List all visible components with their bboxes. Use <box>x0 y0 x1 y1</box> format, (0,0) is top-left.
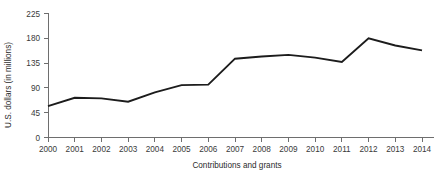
y-tick-label: 135 <box>26 59 40 68</box>
x-tick-label: 2002 <box>92 145 111 154</box>
x-axis-title: Contributions and grants <box>192 161 281 170</box>
x-tick-label: 2013 <box>386 145 405 154</box>
x-tick-label: 2009 <box>279 145 298 154</box>
x-tick-label: 2010 <box>306 145 325 154</box>
x-tick-label: 2014 <box>413 145 432 154</box>
x-tick-label: 2008 <box>253 145 272 154</box>
chart-canvas: 04590135180225 2000200120022003200420052… <box>0 0 440 184</box>
x-tick-label: 2012 <box>359 145 378 154</box>
data-series-group <box>48 38 422 106</box>
y-tick-label: 225 <box>26 10 40 19</box>
y-tick-label: 0 <box>35 134 40 143</box>
x-tick-label: 2006 <box>199 145 218 154</box>
y-axis-title: U.S. dollars (in millions) <box>4 42 13 128</box>
x-tick-label: 2000 <box>39 145 58 154</box>
y-axis: 04590135180225 <box>26 10 48 143</box>
y-tick-label: 90 <box>31 84 41 93</box>
series-line-1 <box>48 38 422 106</box>
x-tick-label: 2001 <box>66 145 85 154</box>
line-chart-contributions-and-grants: 04590135180225 2000200120022003200420052… <box>0 0 440 184</box>
x-tick-label: 2005 <box>172 145 191 154</box>
y-tick-label: 180 <box>26 34 40 43</box>
x-tick-label: 2007 <box>226 145 245 154</box>
y-tick-label: 45 <box>31 109 41 118</box>
x-axis: 2000200120022003200420052006200720082009… <box>39 138 434 154</box>
x-tick-label: 2004 <box>146 145 165 154</box>
x-tick-label: 2003 <box>119 145 138 154</box>
x-tick-label: 2011 <box>333 145 351 154</box>
